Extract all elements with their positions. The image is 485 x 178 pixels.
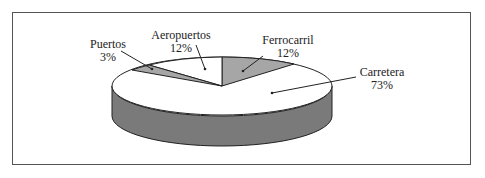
- pie-chart: [0, 0, 485, 178]
- label-ferrocarril: Ferrocarril 12%: [258, 34, 318, 60]
- label-puertos: Puertos 3%: [88, 38, 128, 64]
- label-pct: 3%: [88, 51, 128, 64]
- label-pct: 12%: [258, 47, 318, 60]
- label-aeropuertos: Aeropuertos 12%: [146, 29, 216, 55]
- label-carretera: Carretera 73%: [352, 66, 412, 92]
- label-pct: 73%: [352, 79, 412, 92]
- label-pct: 12%: [146, 42, 216, 55]
